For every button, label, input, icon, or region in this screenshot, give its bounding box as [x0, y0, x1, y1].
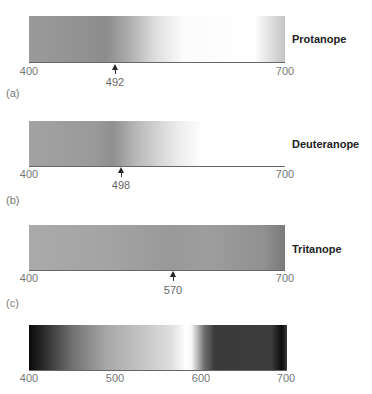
panel-letter: (b) [6, 194, 19, 206]
neutral-point-label: 570 [164, 284, 182, 296]
neutral-point-label: 492 [106, 76, 124, 88]
axis-line [29, 62, 285, 63]
neutral-point-label: 498 [112, 179, 130, 191]
label-deuteranope: Deuteranope [292, 138, 359, 150]
panel-letter: (a) [6, 87, 19, 99]
tick-max: 700 [276, 65, 294, 77]
spectrum-bar-reference [29, 325, 287, 370]
axis-line [29, 370, 287, 371]
arrow-stem [173, 275, 174, 281]
tick-min: 400 [20, 65, 38, 77]
spectrum-bar-protanope [29, 16, 285, 62]
tick-max: 700 [276, 272, 294, 284]
tick-400: 400 [20, 372, 38, 384]
axis-line [29, 166, 285, 167]
arrow-stem [115, 68, 116, 74]
spectrum-bar-tritanope [29, 225, 285, 270]
panel-letter: (c) [6, 297, 19, 309]
tick-min: 400 [20, 272, 38, 284]
arrow-stem [121, 171, 122, 177]
axis-line [29, 270, 285, 271]
tick-min: 400 [20, 168, 38, 180]
label-tritanope: Tritanope [292, 243, 342, 255]
spectrum-bar-deuteranope [29, 121, 285, 166]
tick-700: 700 [277, 372, 295, 384]
tick-max: 700 [276, 168, 294, 180]
tick-500: 500 [106, 372, 124, 384]
label-protanope: Protanope [292, 33, 346, 45]
tick-600: 600 [192, 372, 210, 384]
